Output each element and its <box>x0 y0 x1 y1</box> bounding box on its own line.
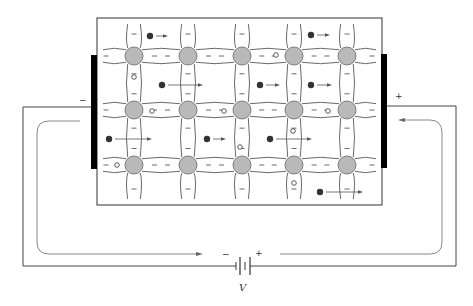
hole-icon <box>115 163 120 168</box>
lattice-atom <box>233 47 251 65</box>
lattice-atom <box>179 47 197 65</box>
drift-arrowhead-icon <box>327 83 332 87</box>
drift-arrowhead-icon <box>163 34 168 38</box>
electron-icon <box>317 189 323 195</box>
lattice-atom <box>125 47 143 65</box>
hole-icon <box>150 109 155 114</box>
hole-icon <box>326 109 331 114</box>
electron-icon <box>267 136 273 142</box>
hole-icon <box>291 129 296 134</box>
electron-icon <box>204 136 210 142</box>
lattice-atom <box>125 101 143 119</box>
right-electrode-sign: + <box>395 91 403 101</box>
lattice-atom <box>179 101 197 119</box>
electron-icon <box>308 82 314 88</box>
lattice-atom <box>179 156 197 174</box>
electron-icon <box>106 136 112 142</box>
drift-arrowhead-icon <box>275 83 280 87</box>
drift-arrowhead-icon <box>198 83 203 87</box>
electron-icon <box>308 32 314 38</box>
hole-icon <box>274 53 279 58</box>
lattice-atom <box>125 156 143 174</box>
hole-icon <box>222 109 227 114</box>
lattice-atom <box>285 156 303 174</box>
arrowhead-icon <box>196 252 203 256</box>
lattice-atom <box>338 156 356 174</box>
hole-icon <box>132 75 137 80</box>
battery-plus-sign: + <box>255 248 263 258</box>
battery-icon <box>236 257 250 275</box>
lattice-atom <box>285 47 303 65</box>
battery-minus-sign: − <box>222 249 230 259</box>
conduction-diagram: − + − + V <box>0 0 473 306</box>
lattice-atom <box>233 101 251 119</box>
right-electrode <box>381 54 387 168</box>
hole-icon <box>238 145 243 150</box>
electron-icon <box>257 82 263 88</box>
drift-arrowhead-icon <box>358 190 363 194</box>
drift-arrowhead-icon <box>307 137 312 141</box>
current-flow-arrow-right <box>280 120 442 254</box>
electron-icon <box>147 33 153 39</box>
drift-arrowhead-icon <box>325 33 330 37</box>
drift-arrowhead-icon <box>221 137 226 141</box>
electron-icon <box>159 82 165 88</box>
lattice-atom <box>338 47 356 65</box>
current-flow-arrow-left <box>37 121 198 254</box>
left-electrode <box>91 55 97 169</box>
lattice-atoms <box>125 47 356 174</box>
circuit-wire <box>23 106 456 266</box>
lattice-atom <box>338 101 356 119</box>
battery-voltage-label: V <box>239 282 248 293</box>
hole-icon <box>292 181 297 186</box>
arrowhead-icon <box>398 118 405 122</box>
lattice-atom <box>233 156 251 174</box>
drift-arrowhead-icon <box>147 137 152 141</box>
lattice-atom <box>285 101 303 119</box>
left-electrode-sign: − <box>79 95 87 105</box>
